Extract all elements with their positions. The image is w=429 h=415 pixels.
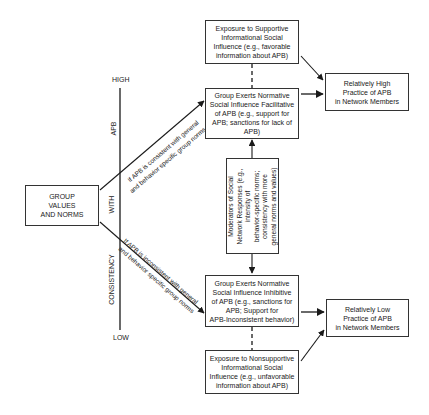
box-line: Social Influence Inhibitive bbox=[210, 288, 295, 297]
box-line: Relatively Low bbox=[335, 305, 399, 314]
nonsupportive-to-low-arrow bbox=[301, 330, 324, 361]
box-line: Relatively High bbox=[335, 79, 399, 88]
low-practice-outcome-box: Relatively Low Practice of APB in Networ… bbox=[326, 299, 409, 337]
box-line: Social Influence Facilitative bbox=[210, 100, 294, 109]
box-line: Practice of APB bbox=[335, 314, 399, 323]
box-line: Group Exerts Normative bbox=[210, 91, 294, 100]
box-line: in Network Members bbox=[335, 97, 399, 106]
box-line: general norms and values) bbox=[270, 167, 279, 245]
axis-segment-consistency: CONSISTENCY bbox=[108, 254, 115, 306]
box-line: Exposure to Supportive bbox=[213, 24, 290, 33]
group-values-box: GROUP VALUES AND NORMS bbox=[25, 185, 99, 226]
inhibitive-influence-box: Group Exerts Normative Social Influence … bbox=[205, 275, 299, 327]
box-line: APB) bbox=[210, 127, 294, 136]
box-line: Influence (e.g., unfavorable bbox=[210, 372, 295, 381]
box-line: APB; sanctions for lack of bbox=[210, 118, 294, 127]
box-line: Practice of APB bbox=[335, 88, 399, 97]
group-box-line: AND NORMS bbox=[41, 210, 84, 219]
high-practice-outcome-box: Relatively High Practice of APB in Netwo… bbox=[325, 73, 409, 111]
box-line: Exposure to Nonsupportive bbox=[210, 354, 295, 363]
box-line: consistency with more bbox=[261, 167, 270, 245]
box-line: of APB (e.g., support for bbox=[210, 109, 294, 118]
group-box-line: VALUES bbox=[41, 201, 84, 210]
nonsupportive-influence-box: Exposure to Nonsupportive Informational … bbox=[205, 350, 299, 394]
box-line: in Network Members bbox=[335, 323, 399, 332]
box-line: Informational Social bbox=[210, 363, 295, 372]
box-line: Group Exerts Normative bbox=[210, 279, 295, 288]
box-line: information about APB) bbox=[213, 51, 290, 60]
axis-segment-apb: APB bbox=[110, 119, 117, 139]
box-line: Moderators of Social bbox=[227, 167, 236, 245]
box-line: Informational Social bbox=[213, 33, 290, 42]
axis-low-label: LOW bbox=[113, 334, 129, 342]
box-line: APB; Support for bbox=[210, 306, 295, 315]
group-box-line: GROUP bbox=[41, 192, 84, 201]
box-line: APB-Inconsistent behavior) bbox=[210, 315, 295, 324]
supportive-to-high-arrow bbox=[301, 56, 323, 80]
box-line: Influence (e.g., favorable bbox=[213, 42, 290, 51]
axis-segment-with: WITH bbox=[108, 193, 115, 217]
facilitative-influence-box: Group Exerts Normative Social Influence … bbox=[205, 88, 299, 139]
box-line: information about APB) bbox=[210, 381, 295, 390]
moderators-box: Moderators of Social Network Responses (… bbox=[226, 158, 279, 254]
axis-high-label: HIGH bbox=[112, 76, 130, 84]
supportive-influence-box: Exposure to Supportive Informational Soc… bbox=[205, 20, 299, 64]
box-line: of APB (e.g., sanctions for bbox=[210, 297, 295, 306]
